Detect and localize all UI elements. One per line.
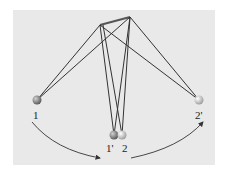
bob-1-prime: [110, 131, 119, 140]
bob-1: [33, 96, 42, 105]
bob-2: [118, 131, 127, 140]
label-bob-1-prime: 1': [106, 142, 114, 154]
pendulum-diagram: 1 1' 2 2': [0, 0, 231, 172]
label-bob-2-prime: 2': [195, 109, 203, 121]
label-bob-2: 2: [122, 142, 128, 154]
label-bob-1: 1: [33, 109, 39, 121]
bob-2-prime: [195, 96, 204, 105]
